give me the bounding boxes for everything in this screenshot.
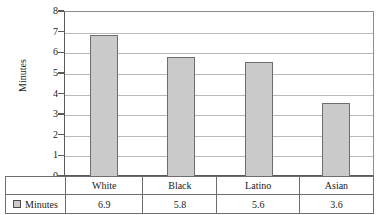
table-value-cell: 5.8	[143, 195, 217, 214]
y-axis-tick-label: 2	[28, 130, 58, 140]
plot-area	[64, 11, 374, 176]
y-axis-tick-label: 6	[28, 47, 58, 57]
gridline	[65, 33, 373, 34]
bar-asian	[322, 103, 350, 177]
table-header-cell: White	[66, 177, 143, 195]
bar-chart-figure: Minutes 012345678 White Black Latino Asi…	[0, 0, 385, 215]
y-axis-tick-label: 5	[28, 68, 58, 78]
table-value-cell: 6.9	[66, 195, 143, 214]
table-row-values: Minutes 6.9 5.8 5.6 3.6	[6, 195, 374, 214]
data-table: White Black Latino Asian Minutes 6.9 5.8…	[5, 176, 374, 214]
y-axis-tick-label: 8	[28, 6, 58, 16]
y-axis-tick-label: 1	[28, 150, 58, 160]
y-axis-tick-label: 3	[28, 109, 58, 119]
table-header-cell: Asian	[299, 177, 373, 195]
y-axis-tick-label: 4	[28, 89, 58, 99]
bar-latino	[245, 62, 273, 178]
bar-white	[90, 35, 118, 177]
y-axis-title: Minutes	[17, 41, 28, 111]
table-value-cell: 3.6	[299, 195, 373, 214]
table-header-cell: Latino	[217, 177, 299, 195]
series-swatch-icon	[13, 200, 21, 208]
legend-entry-minutes: Minutes	[6, 195, 66, 214]
table-corner-blank	[6, 177, 66, 195]
table-row-categories: White Black Latino Asian	[6, 177, 374, 195]
table-header-cell: Black	[143, 177, 217, 195]
legend-label: Minutes	[25, 199, 58, 210]
table-value-cell: 5.6	[217, 195, 299, 214]
y-axis-tick-label: 7	[28, 27, 58, 37]
bar-black	[167, 57, 195, 177]
